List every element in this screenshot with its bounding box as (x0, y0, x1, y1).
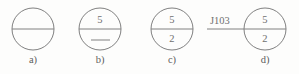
symbol-d-top-value: 5 (244, 14, 286, 25)
caption-a: a) (13, 54, 53, 66)
symbol-item-a: a) (0, 0, 67, 74)
symbol-c-top-value: 5 (151, 14, 193, 25)
symbol-item-b: 5 b) (67, 0, 139, 74)
symbol-c-bottom-value: 2 (151, 33, 193, 44)
caption-b: b) (80, 54, 120, 66)
caption-c: c) (152, 54, 192, 66)
wire-label-j103: J103 (210, 15, 230, 26)
symbol-d-bottom-value: 2 (244, 33, 286, 44)
symbol-b-top-value: 5 (79, 14, 121, 25)
symbol-item-d: J103 5 2 d) (199, 0, 299, 74)
symbol-figure: a) 5 b) 5 2 c) J103 5 2 d) (0, 0, 299, 74)
caption-d: d) (245, 54, 285, 66)
